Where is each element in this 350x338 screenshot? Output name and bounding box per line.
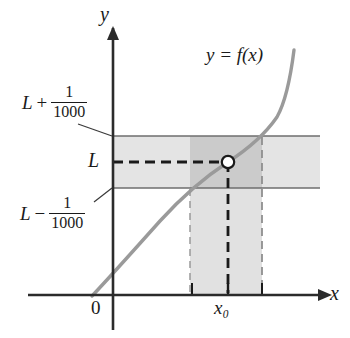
lower-bound-denominator: 1000 [49,213,85,232]
y-axis-label: y [100,4,109,24]
upper-bound-label: L + 1 1000 [22,84,87,121]
lower-bound-fraction: 1 1000 [49,195,85,232]
limit-definition-figure: y x 0 x₀ y = f(x) L L + 1 1000 L − 1 100… [0,0,350,338]
upper-bound-fraction: 1 1000 [51,84,87,121]
limit-value-label: L [88,150,99,170]
upper-bound-denominator: 1000 [51,102,87,121]
upper-bound-sign: + [37,93,48,112]
lower-bound-label: L − 1 1000 [20,195,85,232]
upper-bound-numerator: 1 [63,84,75,102]
upper-bound-leader-line [78,124,112,136]
figure-canvas [0,0,350,338]
origin-label: 0 [91,298,101,317]
lower-bound-numerator: 1 [61,195,73,213]
limit-point-marker [222,156,234,168]
lower-bound-leader-line [94,188,112,202]
x0-label: x₀ [214,298,229,317]
x-axis-label: x [330,283,339,303]
function-curve-label: y = f(x) [206,45,263,64]
upper-bound-base: L [22,93,33,112]
lower-bound-base: L [20,204,31,223]
y-axis-arrowhead [107,26,119,40]
lower-bound-sign: − [35,204,46,223]
